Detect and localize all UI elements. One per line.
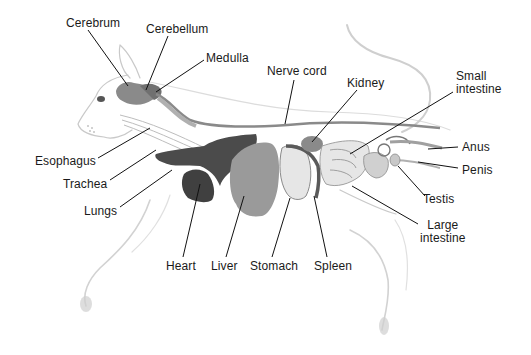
- label-kidney: Kidney: [347, 77, 384, 90]
- heart-shape: [182, 170, 214, 203]
- label-nerve-cord: Nerve cord: [267, 65, 327, 78]
- label-anus: Anus: [462, 141, 490, 154]
- label-testis: Testis: [423, 193, 454, 206]
- brain: [116, 82, 162, 105]
- label-spleen: Spleen: [314, 260, 352, 273]
- kidney-shape: [301, 136, 323, 152]
- cat-anatomy-diagram: Cerebrum Cerebellum Medulla Nerve cord K…: [0, 0, 531, 355]
- label-lungs: Lungs: [84, 205, 117, 218]
- label-cerebellum: Cerebellum: [146, 23, 208, 36]
- label-liver: Liver: [211, 260, 238, 273]
- label-heart: Heart: [166, 260, 196, 273]
- label-small-intestine: Small intestine: [456, 70, 502, 96]
- hind-paw: [379, 317, 389, 335]
- nerve-cord-shape: [156, 94, 440, 128]
- label-cerebrum: Cerebrum: [66, 17, 120, 30]
- label-medulla: Medulla: [206, 52, 249, 65]
- label-large-intestine: Large intestine: [420, 219, 466, 245]
- label-penis: Penis: [462, 164, 493, 177]
- label-stomach: Stomach: [250, 260, 298, 273]
- front-paw: [80, 296, 92, 312]
- cat-eye: [97, 96, 105, 102]
- label-small-intestine-line2: intestine: [456, 83, 502, 96]
- testis-shape: [390, 154, 400, 166]
- intestines-shape: [320, 137, 442, 186]
- label-trachea: Trachea: [63, 178, 107, 191]
- label-large-intestine-line2: intestine: [420, 232, 466, 245]
- label-esophagus: Esophagus: [35, 155, 96, 168]
